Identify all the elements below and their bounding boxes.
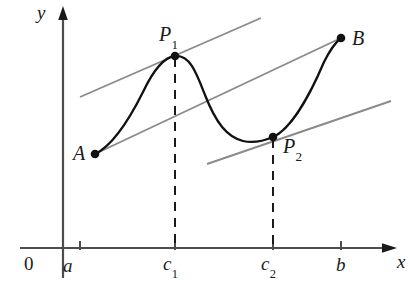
point-label-b: B: [352, 28, 364, 48]
x-axis-arrowhead: [382, 243, 397, 253]
tick-label-c2: c2: [261, 254, 276, 277]
point-a: [91, 150, 100, 159]
tick-label-a: a: [63, 256, 73, 275]
x-axis-label: x: [397, 252, 405, 271]
tick-label-c1-sub: 1: [172, 267, 178, 281]
point-p1: [171, 52, 180, 61]
secant-line-ab: [95, 38, 341, 154]
figure-canvas: y x 0 a c1 c2 b A P1 P2 B: [0, 0, 416, 303]
tick-label-c2-sub: 2: [270, 267, 276, 281]
dashed-lines-group: [175, 58, 273, 248]
point-label-p1-base: P: [159, 23, 171, 45]
origin-label: 0: [24, 254, 34, 273]
tick-label-c1: c1: [163, 254, 178, 277]
point-label-p1: P1: [159, 24, 178, 48]
y-axis-arrowhead: [58, 6, 68, 20]
tick-label-c2-base: c: [261, 253, 269, 274]
point-label-p2-base: P: [283, 135, 295, 157]
tick-label-b: b: [336, 255, 346, 274]
point-b: [337, 34, 346, 43]
point-p2: [269, 133, 278, 142]
point-label-p2-sub: 2: [295, 149, 302, 164]
point-label-a: A: [73, 143, 85, 163]
point-label-p1-sub: 1: [171, 37, 178, 52]
point-label-p2: P2: [283, 136, 302, 160]
y-axis-label: y: [37, 3, 45, 22]
tick-label-c1-base: c: [163, 253, 171, 274]
